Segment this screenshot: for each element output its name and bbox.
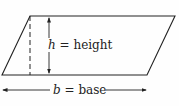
height-text: height <box>73 38 112 52</box>
base-text: base <box>78 83 106 97</box>
base-variable: b <box>53 83 61 97</box>
parallelogram-diagram: h = height b = base <box>0 0 179 106</box>
base-equals: = <box>61 83 79 97</box>
height-equals: = <box>56 38 74 52</box>
height-variable: h <box>48 38 56 52</box>
height-label: h = height <box>48 39 112 51</box>
base-label: b = base <box>53 84 106 96</box>
